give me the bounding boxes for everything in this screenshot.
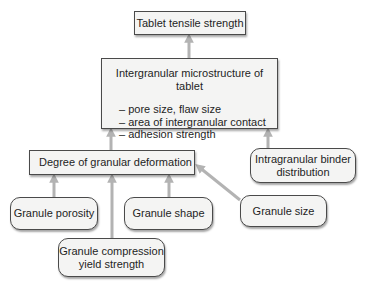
arrow-layer	[0, 0, 366, 286]
node-label: Granule shape	[132, 207, 204, 220]
intergranular-microstructure-node: Intergranular microstructure of tablet –…	[101, 58, 278, 129]
node-label: Tablet tensile strength	[136, 17, 243, 30]
granule-shape-node: Granule shape	[124, 197, 213, 230]
tablet-tensile-strength-node: Tablet tensile strength	[134, 11, 246, 35]
node-label: Granule size	[253, 205, 315, 218]
intragranular-binder-distribution-node: Intragranular binder distribution	[250, 148, 356, 183]
granule-porosity-node: Granule porosity	[10, 197, 98, 230]
node-label-line: Granule compression	[59, 245, 164, 258]
property-item: – pore size, flaw size	[119, 103, 266, 116]
property-list: – pore size, flaw size – area of intergr…	[119, 103, 266, 141]
property-item: – adhesion strength	[119, 128, 266, 141]
arrow-size-to-degree	[199, 167, 240, 200]
node-label: Intergranular microstructure of tablet	[102, 67, 277, 93]
node-label-line: distribution	[276, 166, 329, 179]
granule-compression-yield-strength-node: Granule compression yield strength	[58, 238, 165, 277]
node-label-line: yield strength	[79, 258, 144, 271]
granule-size-node: Granule size	[240, 195, 327, 227]
node-label-line: Intragranular binder	[255, 153, 351, 166]
node-label: Granule porosity	[14, 207, 95, 220]
node-label: Degree of granular deformation	[39, 156, 192, 169]
property-item: – area of intergranular contact	[119, 116, 266, 129]
degree-of-granular-deformation-node: Degree of granular deformation	[29, 150, 195, 175]
